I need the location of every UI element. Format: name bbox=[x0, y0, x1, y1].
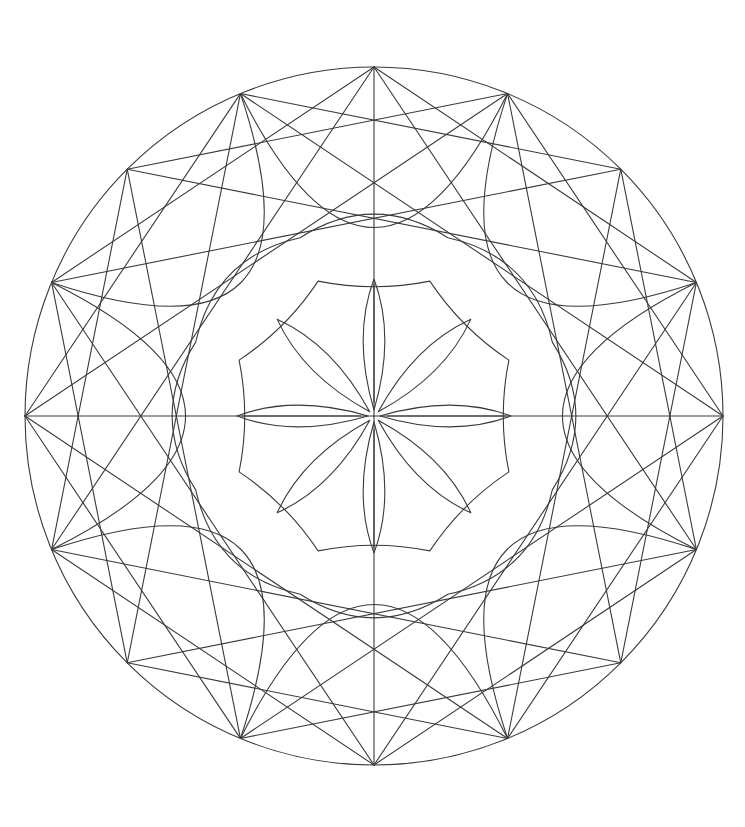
mandala-artwork bbox=[0, 0, 745, 827]
page-background bbox=[0, 0, 745, 827]
